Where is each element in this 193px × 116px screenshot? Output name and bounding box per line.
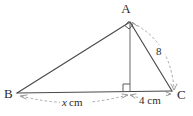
edge-AC: [130, 22, 172, 91]
vertex-label-A: A: [121, 1, 131, 16]
dimension-x-cm: x cm: [20, 94, 128, 109]
geometry-figure: x cm 4 cm 8 A B: [0, 0, 193, 116]
vertex-label-B: B: [4, 86, 13, 101]
vertex-label-C: C: [177, 87, 186, 102]
right-angle-at-D-icon: [123, 84, 130, 91]
dimension-x-cm-unit: cm: [69, 96, 83, 108]
dimension-x-cm-symbol: x: [61, 96, 67, 108]
edge-BC: [17, 91, 172, 93]
dimension-4-cm-label: 4 cm: [139, 94, 161, 106]
geometry-canvas: x cm 4 cm 8 A B: [0, 0, 193, 116]
dimension-4-cm: 4 cm: [130, 92, 171, 107]
edge-AB: [17, 22, 130, 93]
dimension-8-label: 8: [156, 45, 162, 57]
dimension-8: 8: [132, 22, 177, 90]
dimension-8-arc: [133, 23, 174, 88]
